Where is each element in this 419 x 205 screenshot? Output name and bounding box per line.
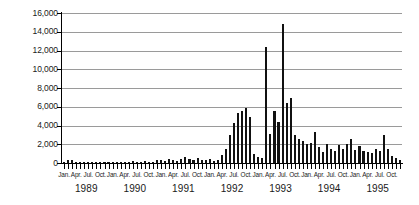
x-axis-month-label: Jul.: [278, 171, 287, 178]
x-axis-month-label: Jul.: [132, 171, 141, 178]
bar: [282, 24, 284, 163]
x-axis-tick: [137, 164, 138, 169]
x-axis-tick: [392, 164, 393, 169]
bar: [257, 157, 259, 163]
x-axis-month-label: Jan.: [58, 171, 69, 178]
x-axis-month-label: Apr.: [216, 171, 227, 178]
x-axis-tick: [360, 164, 361, 169]
bar: [371, 153, 373, 163]
bar: [261, 158, 263, 163]
bar: [180, 159, 182, 163]
bar: [99, 162, 101, 163]
bar: [237, 113, 239, 163]
x-axis-month-label: Jan.: [204, 171, 215, 178]
bar: [71, 160, 73, 163]
bar: [290, 98, 292, 163]
bar: [176, 161, 178, 163]
x-axis-tick: [295, 164, 296, 169]
x-axis-tick: [384, 164, 385, 169]
bar: [253, 154, 255, 163]
bar: [391, 156, 393, 164]
x-axis-tick: [96, 164, 97, 169]
bar: [399, 160, 401, 163]
x-axis-month-label: Jul.: [375, 171, 384, 178]
bar: [383, 135, 385, 163]
bar: [330, 149, 332, 163]
x-axis-tick: [100, 164, 101, 169]
x-axis-tick: [109, 164, 110, 169]
bar: [346, 144, 348, 163]
y-axis-tick: [57, 126, 62, 127]
bar: [241, 111, 243, 164]
bar: [249, 117, 251, 163]
bar: [144, 161, 146, 163]
x-axis-tick: [400, 164, 401, 169]
bar: [75, 162, 77, 163]
x-axis-tick: [141, 164, 142, 169]
x-axis-tick: [380, 164, 381, 169]
y-axis-tick: [57, 32, 62, 33]
x-axis-year-label: 1995: [366, 183, 389, 195]
x-axis-tick: [327, 164, 328, 169]
x-axis-tick: [68, 164, 69, 169]
x-axis-tick: [275, 164, 276, 169]
bar: [156, 160, 158, 163]
bar: [83, 162, 85, 163]
x-axis-tick: [303, 164, 304, 169]
bar: [217, 160, 219, 163]
bar: [350, 139, 352, 163]
y-axis-tick-label: 14,000: [33, 27, 58, 36]
x-axis-tick: [258, 164, 259, 169]
x-axis-tick: [198, 164, 199, 169]
x-axis-tick: [287, 164, 288, 169]
x-axis-month-label: Oct.: [386, 171, 397, 178]
x-axis-tick: [214, 164, 215, 169]
x-axis-tick: [250, 164, 251, 169]
x-axis-tick: [238, 164, 239, 169]
x-axis-tick: [270, 164, 271, 169]
x-axis-tick: [105, 164, 106, 169]
bar: [103, 162, 105, 163]
x-axis-month-label: Oct.: [95, 171, 106, 178]
x-axis-month-label: Jan.: [253, 171, 264, 178]
x-axis-tick: [343, 164, 344, 169]
y-axis-tick-label: 2,000: [37, 140, 58, 149]
bar: [229, 135, 231, 163]
y-axis-tick-label: 12,000: [33, 46, 58, 55]
x-axis-tick: [80, 164, 81, 169]
bar: [362, 151, 364, 163]
bar: [245, 108, 247, 163]
x-axis-tick: [218, 164, 219, 169]
x-axis-tick: [291, 164, 292, 169]
bar: [213, 161, 215, 163]
x-axis-tick: [368, 164, 369, 169]
bar: [63, 162, 65, 163]
bar-chart: 02,0004,0006,0008,00010,00012,00014,0001…: [0, 0, 419, 205]
bar-series: [62, 13, 402, 163]
bar: [318, 147, 320, 163]
x-axis-tick: [169, 164, 170, 169]
x-axis-tick: [129, 164, 130, 169]
x-axis-tick: [283, 164, 284, 169]
x-axis-tick: [307, 164, 308, 169]
x-axis-year-labels: 1989199019911992199319941995: [0, 183, 419, 197]
bar: [95, 162, 97, 163]
bar: [128, 162, 130, 163]
bar: [265, 47, 267, 163]
x-axis-tick: [157, 164, 158, 169]
y-axis-tick-label: 10,000: [33, 65, 58, 74]
x-axis-tick: [165, 164, 166, 169]
x-axis-month-label: Apr.: [168, 171, 179, 178]
x-axis-tick: [72, 164, 73, 169]
bar: [358, 146, 360, 163]
y-axis-tick: [57, 88, 62, 89]
x-axis-tick: [185, 164, 186, 169]
bar: [168, 159, 170, 163]
x-axis-tick: [222, 164, 223, 169]
y-axis-tick: [57, 13, 62, 14]
x-axis-tick: [145, 164, 146, 169]
bar: [354, 150, 356, 163]
bar: [164, 161, 166, 163]
bar: [269, 134, 271, 163]
bar: [395, 158, 397, 163]
